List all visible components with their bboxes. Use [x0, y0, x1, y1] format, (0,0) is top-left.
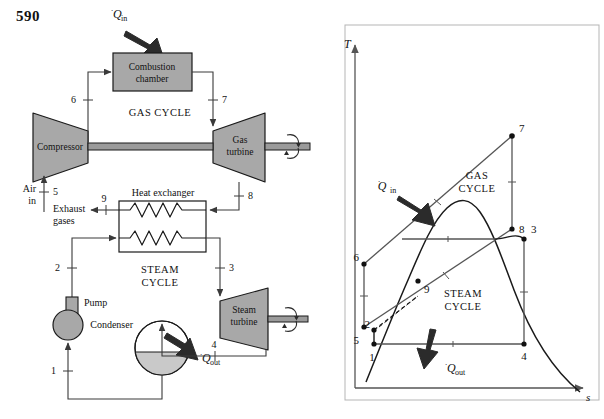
- ts-label-9: 9: [424, 283, 430, 295]
- pipe-combustor-to-gas-turbine: [192, 72, 213, 126]
- ts-label-7: 7: [519, 122, 525, 134]
- ts-q-in-dot: .: [378, 174, 380, 184]
- gas-process-6-7: [364, 136, 512, 264]
- pipe-compressor-to-combustor: [88, 72, 111, 142]
- ts-steam-cycle-label-1: STEAM: [444, 288, 482, 299]
- steam-cycle-label-1: STEAM: [141, 264, 179, 275]
- ts-point-9: [415, 278, 420, 283]
- steam-turbine-label-2: turbine: [231, 317, 258, 327]
- ts-axis-y-label: T: [344, 37, 352, 51]
- state-label-5-schematic: 5: [53, 186, 58, 197]
- state-label-3-schematic: 3: [229, 262, 234, 273]
- heat-exchanger-label: Heat exchanger: [132, 187, 195, 198]
- ts-point-8: [509, 226, 514, 231]
- combustion-chamber-label-1: Combustion: [129, 62, 176, 72]
- heat-exchanger-coil-gas: [119, 203, 206, 217]
- exhaust-label-2: gases: [53, 215, 75, 226]
- ts-q-out-arrow: [417, 329, 438, 369]
- combustion-chamber-body: [113, 53, 192, 91]
- gas-turbine-label-1: Gas: [233, 135, 248, 145]
- gas-cycle-label-schematic: GAS CYCLE: [129, 107, 192, 118]
- gas-turbine-output-shaft: [265, 143, 310, 150]
- state-label-9-schematic: 9: [102, 193, 107, 204]
- ts-point-6: [361, 261, 366, 266]
- gas-turbine-label-2: turbine: [227, 147, 254, 157]
- state-label-7-schematic: 7: [222, 94, 227, 105]
- steam-turbine-label-1: Steam: [232, 305, 256, 315]
- figure-combined-cycle: Q . in Combustion chamber GAS CYCLE 6 7 …: [0, 0, 604, 419]
- condenser-label: Condenser: [90, 319, 133, 330]
- gas-process-8-9-5: [364, 229, 512, 327]
- ts-point-2: [371, 327, 376, 332]
- q-in-dot-schematic: .: [111, 3, 113, 13]
- q-in-subscript-schematic: in: [121, 14, 127, 23]
- ts-point-3: [521, 236, 526, 241]
- ts-label-1: 1: [369, 351, 375, 363]
- ts-gas-cycle-label-2: CYCLE: [459, 183, 496, 194]
- ts-point-4: [521, 341, 526, 346]
- ts-point-7: [509, 133, 515, 139]
- compressor-label: Compressor: [37, 142, 84, 152]
- pump-label: Pump: [84, 297, 107, 308]
- gas-cycle-shaft: [88, 143, 213, 150]
- schematic-panel: Q . in Combustion chamber GAS CYCLE 6 7 …: [23, 3, 310, 399]
- ts-q-out-subscript: out: [455, 368, 466, 377]
- state-label-2-schematic: 2: [55, 262, 60, 273]
- steam-turbine-shaft: [268, 316, 308, 322]
- ts-label-6: 6: [354, 251, 360, 263]
- ts-label-8: 8: [519, 223, 525, 235]
- ts-steam-cycle-label-2: CYCLE: [445, 301, 482, 312]
- ts-q-out-dot: .: [445, 357, 447, 367]
- state-label-1-schematic: 1: [51, 365, 56, 376]
- combustion-chamber-label-2: chamber: [136, 74, 170, 84]
- heat-exchanger-coil-steam: [119, 231, 206, 245]
- state-label-4-schematic: 4: [212, 339, 217, 350]
- exhaust-label-1: Exhaust: [53, 203, 85, 214]
- ts-label-5: 5: [354, 334, 360, 346]
- ts-label-2: 2: [365, 318, 371, 330]
- air-in-label-1: Air: [23, 183, 37, 194]
- pipe-hx-to-steam-turbine: [206, 238, 220, 296]
- ts-label-3: 3: [531, 223, 537, 235]
- air-in-label-2: in: [28, 195, 36, 206]
- pump-body: [53, 310, 83, 340]
- steam-cycle-label-2: CYCLE: [142, 277, 179, 288]
- ts-axis-x-label: s: [586, 391, 590, 403]
- ts-label-4: 4: [521, 350, 527, 362]
- ts-gas-cycle-label-1: GAS: [466, 170, 489, 181]
- ts-point-1: [371, 341, 376, 346]
- heat-exchanger-body: [119, 201, 206, 252]
- ts-q-in-arrow: [397, 196, 435, 226]
- state-label-6-schematic: 6: [71, 94, 76, 105]
- ts-q-in-subscript: in: [390, 186, 396, 195]
- ts-diagram-panel: T s: [344, 25, 599, 403]
- state-label-8-schematic: 8: [248, 190, 253, 201]
